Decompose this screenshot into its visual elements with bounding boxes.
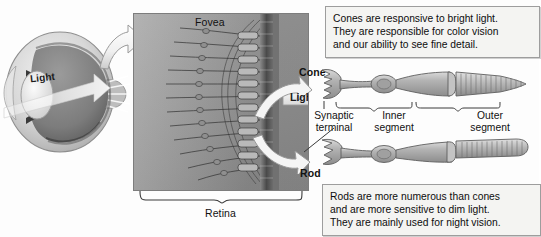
inner-segment-label: Inner segment [368, 110, 420, 134]
cone-callout-line-2: They are responsible for color vision [333, 25, 533, 38]
rod-cell-illustration [316, 132, 536, 178]
panel-light-label: Light [290, 91, 309, 103]
optic-nerve-fibers [108, 76, 130, 112]
cone-nucleus [377, 79, 391, 89]
cone-callout-line-1: Cones are responsive to bright light. [333, 12, 533, 25]
rod-callout-line-1: Rods are more numerous than cones [330, 190, 534, 203]
cone-synaptic-terminal [322, 69, 341, 98]
retina-label: Retina [205, 207, 236, 219]
rod-callout-line-3: They are mainly used for night vision. [330, 216, 534, 229]
outer-segment-label: Outer segment [462, 110, 518, 134]
rod-inner-segment [396, 142, 452, 162]
fovea-label: Fovea [195, 16, 225, 28]
rod-nucleus [377, 149, 391, 159]
rod-label: Rod [300, 167, 321, 179]
retina-brace [138, 189, 306, 205]
cone-inner-fiber [340, 80, 374, 89]
cone-description-callout: Cones are responsive to bright light. Th… [325, 6, 540, 58]
photoreceptor-rows [166, 28, 260, 180]
rod-synaptic-terminal [322, 139, 342, 164]
cone-callout-line-3: and our ability to see fine detail. [333, 38, 533, 51]
rod-description-callout: Rods are more numerous than cones and ar… [322, 184, 541, 236]
rod-callout-line-2: and are more sensitive to dim light. [330, 203, 534, 216]
cone-inner-segment [396, 72, 450, 96]
rod-connecting-cilium [447, 142, 456, 162]
cone-connecting-cilium [448, 72, 456, 96]
rod-inner-fiber [341, 148, 374, 158]
